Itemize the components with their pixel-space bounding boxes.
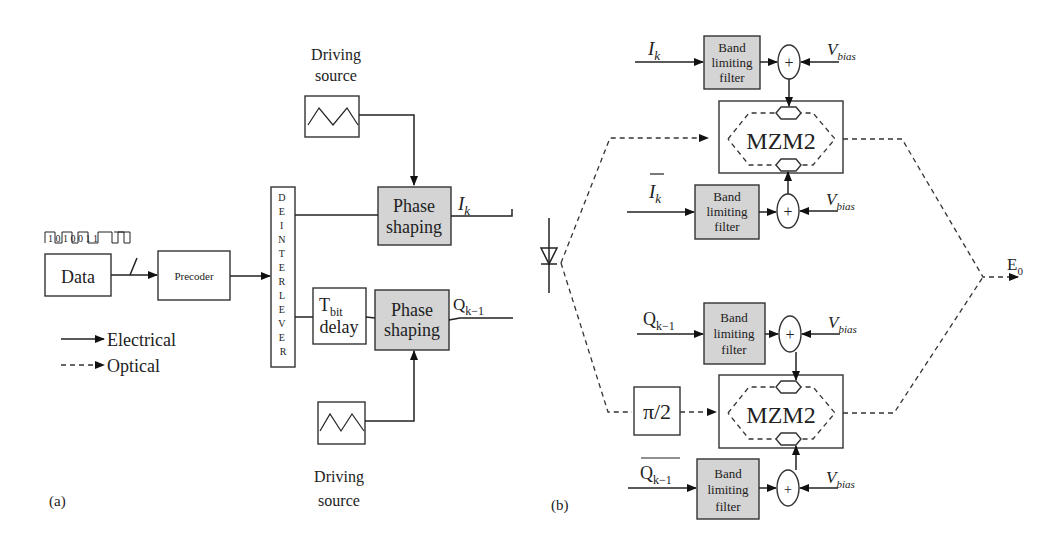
legend-electrical-label: Electrical	[107, 330, 176, 350]
optical-combine-lower	[843, 277, 983, 413]
svg-text:shaping: shaping	[384, 320, 440, 340]
bus-slash	[130, 258, 137, 275]
precoder-block: Precoder	[158, 251, 230, 300]
bit-pattern-text: 1 0 1 0 0 1 1	[48, 233, 98, 244]
svg-text:filter: filter	[721, 342, 747, 357]
input-ik: Ik	[647, 38, 660, 63]
driving-top-wire	[359, 115, 414, 185]
svg-text:filter: filter	[715, 499, 741, 514]
band-limiting-filter-3: Band limiting filter	[704, 303, 765, 364]
svg-text:source: source	[318, 492, 360, 509]
mzm-lower: MZM2	[719, 375, 843, 448]
data-block: Data	[45, 254, 111, 296]
output-qk1: Qk−1	[453, 295, 484, 318]
phase-shift-label: π/2	[643, 399, 671, 424]
band-limiting-filter-1: Band limiting filter	[704, 36, 760, 89]
optical-path-upper	[561, 138, 708, 263]
vbias-1: Vbias	[827, 40, 856, 62]
mzm-upper: MZM2	[719, 101, 843, 173]
svg-text:limiting: limiting	[706, 204, 748, 219]
band-limiting-filter-2: Band limiting filter	[695, 185, 759, 239]
svg-text:Driving: Driving	[314, 468, 364, 486]
svg-text:limiting: limiting	[707, 482, 749, 497]
driving-source-bottom: Driving source	[314, 402, 365, 509]
svg-text:Band: Band	[713, 189, 741, 204]
adder-1: +	[778, 45, 800, 79]
legend: Electrical Optical	[61, 330, 176, 376]
driving-source-top: Driving source	[305, 46, 361, 137]
driving-bottom-wire	[365, 351, 414, 421]
mzm-label: MZM2	[746, 402, 815, 428]
svg-text:source: source	[315, 67, 357, 84]
adder-2: +	[777, 194, 799, 228]
svg-text:Phase: Phase	[391, 300, 433, 320]
tbit-delay-block: Tbit delay	[313, 288, 366, 344]
diagram-canvas: 1 0 1 0 0 1 1 Data Precoder D E I N T E …	[0, 0, 1061, 543]
vbias-4: Vbias	[826, 468, 855, 490]
svg-text:Band: Band	[720, 310, 748, 325]
input-qk1-bar: Qk−1	[640, 463, 672, 487]
vbias-3: Vbias	[828, 313, 857, 335]
svg-text:Band: Band	[714, 466, 742, 481]
svg-text:delay: delay	[320, 317, 359, 337]
optical-path-lower	[561, 263, 632, 412]
svg-text:shaping: shaping	[386, 217, 442, 237]
input-ik-bar: Ik	[648, 181, 661, 206]
deinterleaver-block: D E I N T E R L E V E R	[271, 187, 295, 367]
bit-pattern-waveform: 1 0 1 0 0 1 1	[45, 232, 130, 244]
adder-4: +	[777, 470, 799, 506]
svg-text:filter: filter	[719, 70, 745, 85]
panel-a: 1 0 1 0 0 1 1 Data Precoder D E I N T E …	[45, 46, 513, 510]
electrode-top	[776, 381, 801, 393]
qk1-output-wire	[449, 318, 513, 320]
phase-shaping-bottom: Phase shaping	[375, 290, 449, 350]
phase-shift-pi-2-block: π/2	[634, 387, 680, 435]
svg-text:+: +	[784, 482, 792, 497]
svg-text:filter: filter	[714, 219, 740, 234]
panel-a-label: (a)	[49, 493, 66, 510]
vbias-2: Vbias	[826, 190, 855, 212]
svg-text:Phase: Phase	[393, 196, 435, 216]
precoder-label: Precoder	[174, 270, 213, 282]
phase-shaping-top: Phase shaping	[378, 187, 451, 245]
panel-b: E0 MZM2 Ik Band limiting filter + Vbias …	[541, 36, 1023, 519]
svg-text:+: +	[783, 203, 792, 220]
mzm-label: MZM2	[746, 128, 815, 154]
svg-text:+: +	[784, 54, 793, 71]
panel-b-label: (b)	[551, 497, 569, 514]
output-e0: E0	[1007, 255, 1023, 277]
optical-combine-upper	[843, 139, 1018, 277]
delay-to-phase-wire	[366, 317, 375, 318]
electrode-bottom	[776, 433, 801, 445]
adder-3: +	[779, 316, 801, 352]
svg-text:Band: Band	[718, 40, 746, 55]
svg-text:limiting: limiting	[713, 326, 755, 341]
laser-diode-icon	[541, 218, 557, 293]
svg-text:limiting: limiting	[711, 55, 753, 70]
input-qk1: Qk−1	[643, 309, 675, 333]
data-label: Data	[61, 267, 95, 287]
legend-optical-label: Optical	[107, 356, 160, 376]
output-ik: Ik	[457, 193, 470, 218]
electrode-bottom	[776, 159, 801, 171]
svg-text:+: +	[785, 326, 794, 343]
svg-text:Driving: Driving	[311, 46, 361, 64]
electrode-top	[776, 107, 801, 119]
band-limiting-filter-4: Band limiting filter	[697, 459, 759, 519]
